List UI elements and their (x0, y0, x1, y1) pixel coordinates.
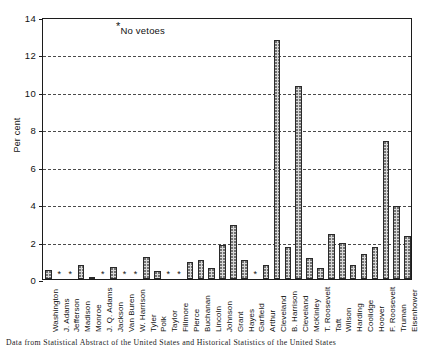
bar (110, 267, 117, 279)
x-tick-label: Johnson (225, 301, 234, 332)
no-veto-asterisk-8: * (134, 270, 138, 279)
bar-series: ******** (43, 19, 411, 279)
x-tick-label: Lincoln (214, 306, 223, 332)
x-tick-label: Jackson (116, 302, 125, 332)
bar (285, 247, 292, 279)
x-tick-label: W. Harrison (138, 289, 147, 332)
y-tick-label-10: 10 (12, 87, 36, 98)
bar (263, 265, 270, 279)
bar (219, 245, 226, 279)
x-tick-label: Grant (236, 311, 245, 332)
bar (361, 254, 368, 279)
source-caption: Data from Statistical Abstract of the Un… (6, 338, 336, 347)
y-tick-label-12: 12 (12, 50, 36, 61)
x-tick-label: Fillmore (181, 303, 190, 332)
x-tick-label: Taylor (170, 310, 179, 332)
x-tick-label: Wilson (344, 307, 353, 332)
no-veto-asterisk-11: * (166, 270, 170, 279)
bar (45, 270, 52, 279)
no-veto-asterisk-19: * (253, 270, 257, 279)
bar (383, 141, 390, 279)
y-tick-label-6: 6 (12, 162, 36, 173)
bar (328, 234, 335, 279)
x-tick-label: Arthur (268, 310, 277, 332)
bar (187, 262, 194, 279)
bar (89, 277, 96, 279)
no-veto-asterisk-12: * (177, 270, 181, 279)
bar (404, 236, 411, 279)
x-tick-label: Taft (334, 319, 343, 332)
bar (295, 86, 302, 279)
x-tick-label: Harding (355, 303, 364, 332)
x-axis-tick-labels: WashingtonJ. AdamsJeffersonMadisonMonroe… (42, 282, 412, 334)
bar (241, 260, 248, 279)
bar (372, 247, 379, 279)
bar (78, 265, 85, 279)
bar (306, 258, 313, 279)
x-tick-label: McKinley (312, 299, 321, 332)
x-tick-label: Coolidge (366, 300, 375, 332)
y-tick-label-2: 2 (12, 237, 36, 248)
plot-area: ******** (42, 18, 412, 280)
bar (317, 268, 324, 279)
x-tick-label: Buchanan (203, 295, 212, 332)
x-tick-label: Tyler (149, 314, 158, 332)
bar (339, 243, 346, 279)
no-veto-asterisk-5: * (101, 270, 105, 279)
x-tick-label: J. Adams (62, 298, 71, 332)
x-tick-label: Van Buren (127, 294, 136, 332)
x-tick-label: Madison (83, 301, 92, 332)
x-tick-label: Hoover (377, 306, 386, 332)
bar (393, 206, 400, 279)
x-tick-label: Polk (159, 316, 168, 332)
bar (154, 271, 161, 279)
veto-percent-bar-chart: Per cent 02468101214 ******** *No vetoes… (0, 0, 437, 352)
y-tick-label-8: 8 (12, 125, 36, 136)
bar (208, 268, 215, 279)
y-tick-label-0: 0 (12, 275, 36, 286)
x-tick-label: Cleveland (279, 296, 288, 332)
x-tick-label: Hayes (247, 309, 256, 332)
y-axis-tick-labels: 02468101214 (10, 0, 36, 352)
x-tick-label: F. Roosevelt (388, 287, 397, 332)
x-tick-label: B. Harrison (290, 291, 299, 332)
y-tick-label-4: 4 (12, 200, 36, 211)
bar (143, 257, 150, 279)
bar (350, 265, 357, 279)
no-veto-asterisk-7: * (123, 270, 127, 279)
bar (274, 40, 281, 279)
x-tick-label: Monroe (94, 304, 103, 332)
no-vetoes-annotation: *No vetoes (116, 20, 165, 36)
no-vetoes-label: No vetoes (120, 25, 165, 36)
x-tick-label: Pierce (192, 309, 201, 332)
no-veto-asterisk-2: * (68, 270, 72, 279)
x-tick-label: Jefferson (72, 298, 81, 332)
x-tick-label: Eisenhower (410, 289, 419, 332)
x-tick-label: J. Q. Adams (105, 287, 114, 332)
x-tick-label: Washington (51, 289, 60, 332)
bar (230, 225, 237, 279)
x-tick-label: Garfield (257, 303, 266, 332)
y-tick-label-14: 14 (12, 13, 36, 24)
x-tick-label: Truman (399, 304, 408, 332)
bar (198, 260, 205, 279)
no-veto-asterisk-1: * (58, 270, 62, 279)
x-tick-label: Cleveland (301, 296, 310, 332)
x-tick-label: T. Roosevelt (323, 287, 332, 332)
